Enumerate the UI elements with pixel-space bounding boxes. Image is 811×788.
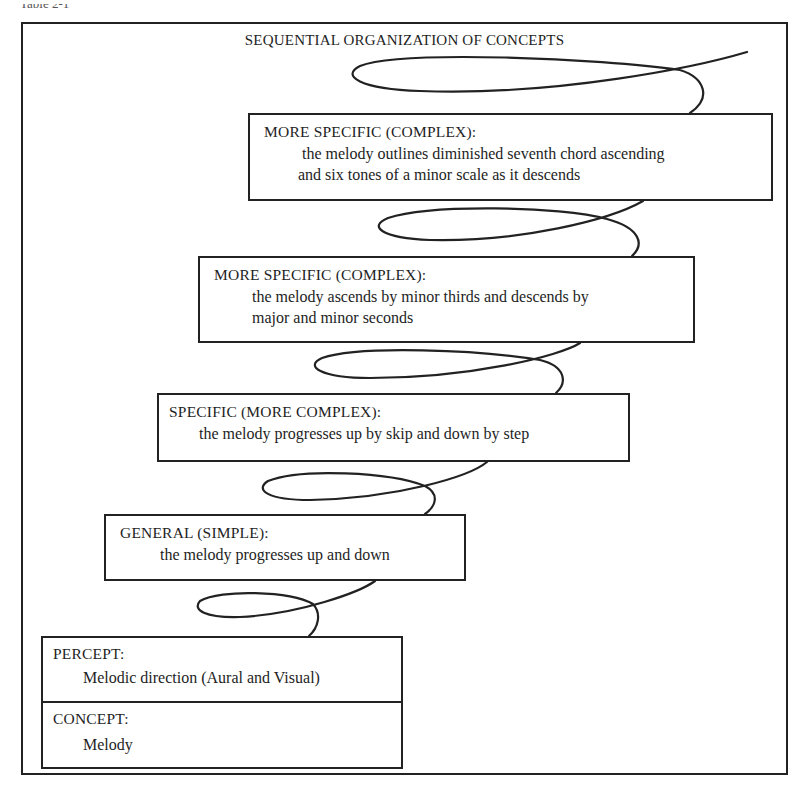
level-box-more-specific-2: MORE SPECIFIC (COMPLEX): the melody outl… <box>248 113 773 201</box>
percept-text: Melodic direction (Aural and Visual) <box>43 663 401 688</box>
concept-heading: CONCEPT: <box>43 703 401 728</box>
concept-section: CONCEPT: Melody <box>43 701 401 769</box>
level-description: the melody progresses up and down <box>106 542 464 565</box>
level-box-specific: SPECIFIC (MORE COMPLEX): the melody prog… <box>157 393 630 462</box>
level-line: major and minor seconds <box>252 307 687 328</box>
diagram-title: SEQUENTIAL ORGANIZATION OF CONCEPTS <box>23 32 786 49</box>
level-heading: GENERAL (SIMPLE): <box>106 516 464 542</box>
level-description: the melody progresses up by skip and dow… <box>159 421 628 444</box>
level-heading: MORE SPECIFIC (COMPLEX): <box>200 258 693 284</box>
level-box-general: GENERAL (SIMPLE): the melody progresses … <box>104 514 466 581</box>
concept-text: Melody <box>43 728 401 755</box>
level-line: the melody progresses up and down <box>160 544 458 565</box>
level-description: the melody ascends by minor thirds and d… <box>200 284 693 328</box>
level-line: the melody progresses up by skip and dow… <box>199 423 622 444</box>
level-description: the melody outlines diminished seventh c… <box>250 141 771 185</box>
percept-section: PERCEPT: Melodic direction (Aural and Vi… <box>43 638 401 701</box>
level-heading: MORE SPECIFIC (COMPLEX): <box>250 115 771 141</box>
level-line: and six tones of a minor scale as it des… <box>298 164 765 185</box>
level-line: the melody outlines diminished seventh c… <box>302 143 765 164</box>
level-box-more-specific-1: MORE SPECIFIC (COMPLEX): the melody asce… <box>198 256 695 343</box>
table-label-fragment: Table 2-1 <box>20 0 69 12</box>
base-box: PERCEPT: Melodic direction (Aural and Vi… <box>41 636 403 769</box>
percept-heading: PERCEPT: <box>43 638 401 663</box>
level-line: the melody ascends by minor thirds and d… <box>252 286 687 307</box>
level-heading: SPECIFIC (MORE COMPLEX): <box>159 395 628 421</box>
